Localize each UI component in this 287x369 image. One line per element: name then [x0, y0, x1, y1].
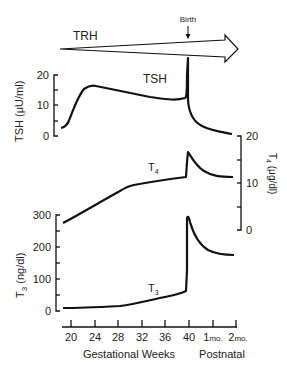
t3-curve-label: T3 — [148, 282, 159, 296]
svg-text:36: 36 — [159, 331, 171, 343]
svg-text:40: 40 — [183, 331, 195, 343]
t4-axis — [237, 136, 241, 230]
svg-text:300: 300 — [33, 209, 51, 221]
svg-text:24: 24 — [89, 331, 101, 343]
birth-arrow-icon — [186, 26, 191, 39]
tsh-curve-label: TSH — [143, 72, 167, 86]
svg-text:20: 20 — [65, 331, 77, 343]
svg-text:10: 10 — [37, 99, 49, 111]
x-axis-label: Gestational Weeks — [83, 348, 176, 360]
tsh-axis — [54, 75, 58, 136]
tsh-axis-label: TSH (μU/ml) — [13, 81, 25, 142]
svg-text:0: 0 — [45, 305, 51, 317]
svg-text:20: 20 — [246, 130, 258, 142]
svg-text:0: 0 — [43, 130, 49, 142]
trh-label: TRH — [73, 29, 98, 43]
t3-tick-labels: 300 200 100 0 — [33, 209, 51, 317]
t4-axis-label: T4 (μg/dl) — [265, 153, 278, 194]
svg-text:0: 0 — [246, 224, 252, 236]
t3-axis — [56, 215, 60, 311]
t3-curve — [63, 217, 234, 308]
svg-text:28: 28 — [112, 331, 124, 343]
thyroid-hormone-development-chart: TRH Birth 20 10 0 TSH (μU/ml) TSH 20 10 … — [0, 0, 287, 369]
t4-curve-label: T4 — [148, 161, 159, 175]
svg-text:32: 32 — [136, 331, 148, 343]
birth-label: Birth — [180, 15, 196, 24]
svg-text:2mo.: 2mo. — [228, 331, 247, 343]
t4-tick-labels: 20 10 0 — [246, 130, 258, 236]
svg-text:200: 200 — [33, 241, 51, 253]
svg-text:100: 100 — [33, 273, 51, 285]
svg-text:20: 20 — [37, 69, 49, 81]
x-axis-label-postnatal: Postnatal — [199, 348, 245, 360]
svg-text:10: 10 — [246, 177, 258, 189]
svg-text:1mo.: 1mo. — [203, 331, 222, 343]
x-tick-labels: 20 24 28 32 36 40 1mo. 2mo. — [65, 331, 248, 343]
t3-axis-label: T3 (ng/dl) — [14, 253, 29, 298]
tsh-curve — [61, 58, 232, 134]
tsh-tick-labels: 20 10 0 — [37, 69, 49, 142]
x-axis — [62, 320, 237, 327]
